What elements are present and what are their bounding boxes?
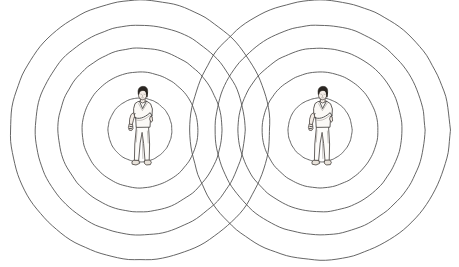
background-rect bbox=[0, 0, 459, 267]
diagram-canvas-container: Two identical standing human figures, ea… bbox=[0, 0, 459, 267]
wave-diagram-svg bbox=[0, 0, 459, 267]
